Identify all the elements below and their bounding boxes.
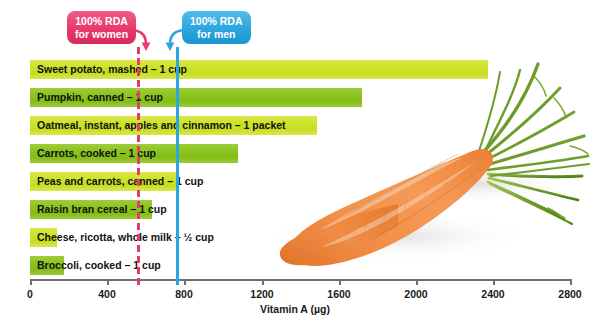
x-axis-tick-label: 1600	[309, 288, 369, 300]
bar-row: Carrots, cooked – 1 cup	[30, 144, 238, 163]
bar-label: Pumpkin, canned – 1 cup	[37, 88, 163, 107]
bar-row: Oatmeal, instant, apples and cinnamon – …	[30, 116, 317, 135]
x-axis-tick	[493, 279, 495, 285]
rda-women-line1: 100% RDA	[75, 15, 128, 28]
bar-row: Sweet potato, mashed – 1 cup	[30, 60, 488, 79]
vitamin-a-bar-chart: Sweet potato, mashed – 1 cup Pumpkin, ca…	[0, 0, 590, 323]
bar-label: Oatmeal, instant, apples and cinnamon – …	[37, 116, 286, 135]
bar-row: Raisin bran cereal – 1 cup	[30, 200, 152, 219]
x-axis-tick-label: 2400	[463, 288, 523, 300]
x-axis-tick-label: 0	[0, 288, 60, 300]
x-axis-tick-label: 400	[77, 288, 137, 300]
rda-men-line2: for men	[190, 28, 243, 41]
rda-men-line	[176, 47, 179, 285]
bar-label: Cheese, ricotta, whole milk – ½ cup	[37, 228, 214, 247]
x-axis-tick	[570, 279, 572, 285]
bar-row: Pumpkin, canned – 1 cup	[30, 88, 362, 107]
rda-men-badge: 100% RDA for men	[182, 11, 251, 44]
bar-label: Broccoli, cooked – 1 cup	[37, 256, 161, 275]
bar-label: Raisin bran cereal – 1 cup	[37, 200, 167, 219]
bar-row: Broccoli, cooked – 1 cup	[30, 256, 64, 275]
bar-row: Cheese, ricotta, whole milk – ½ cup	[30, 228, 57, 247]
x-axis-tick	[339, 279, 341, 285]
x-axis-line	[30, 279, 570, 281]
bar-row: Peas and carrots, canned – 1 cup	[30, 172, 177, 191]
x-axis-tick	[416, 279, 418, 285]
plot-area: Sweet potato, mashed – 1 cup Pumpkin, ca…	[0, 0, 590, 323]
rda-men-line1: 100% RDA	[190, 15, 243, 28]
x-axis-tick	[184, 279, 186, 285]
x-axis-tick	[107, 279, 109, 285]
x-axis-tick	[262, 279, 264, 285]
x-axis-tick-label: 2800	[540, 288, 590, 300]
rda-women-line	[137, 47, 140, 285]
bar-label: Sweet potato, mashed – 1 cup	[37, 60, 187, 79]
x-axis-tick	[30, 279, 32, 285]
x-axis-tick-label: 2000	[386, 288, 446, 300]
x-axis-title: Vitamin A (µg)	[0, 303, 590, 315]
x-axis-tick-label: 1200	[232, 288, 292, 300]
rda-women-badge: 100% RDA for women	[67, 11, 136, 44]
rda-women-line2: for women	[75, 28, 128, 41]
x-axis-tick-label: 800	[154, 288, 214, 300]
